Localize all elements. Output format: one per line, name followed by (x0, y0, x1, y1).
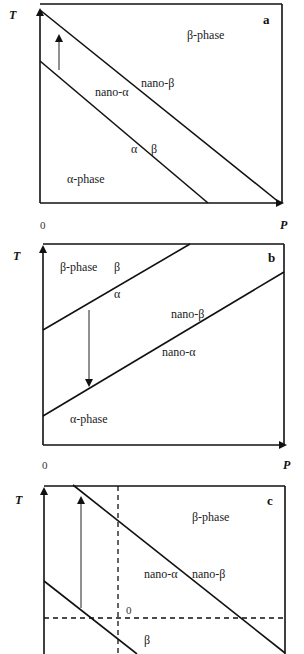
phase-diagram-figure: T a β-phase nano-β nano-α α β α-phase 0 … (0, 0, 304, 654)
panel-a-beta-label: β (151, 142, 157, 156)
panel-c-nano-beta-label: nano-β (192, 567, 225, 581)
panel-b-nano-boundary-line (43, 272, 284, 416)
panel-b-beta-phase-label: β-phase (60, 260, 97, 274)
panel-b-letter: b (268, 250, 275, 265)
panel-a-alpha-phase-label: α-phase (67, 172, 105, 186)
panel-b-alpha-phase-label: α-phase (70, 412, 108, 426)
panel-c-letter: c (267, 493, 273, 508)
panel-c-t-label: T (15, 493, 23, 507)
panel-a-p-label: P (280, 218, 288, 232)
panel-a-nano-beta-label: nano-β (141, 76, 174, 90)
panel-b-p-label: P (283, 458, 291, 472)
panel-c-nano-alpha-label: nano-α (144, 567, 178, 581)
panel-a-bulk-boundary-line (40, 61, 208, 203)
panel-a-alpha-label: α (131, 142, 138, 156)
panel-c: T c β-phase nano-α nano-β 0 β (15, 485, 285, 654)
panel-b: T b β-phase β α nano-β nano-α α-phase 0 … (13, 244, 291, 472)
panel-a: T a β-phase nano-β nano-α α β α-phase 0 … (9, 4, 288, 232)
panel-b-nano-alpha-label: nano-α (162, 345, 196, 359)
panel-a-nano-alpha-label: nano-α (95, 85, 129, 99)
panel-b-alpha-label: α (114, 287, 121, 301)
panel-a-letter: a (263, 12, 270, 27)
panel-b-nano-beta-label: nano-β (171, 307, 204, 321)
panel-b-origin-label: 0 (42, 459, 48, 471)
panel-c-dashed-origin-label: 0 (126, 604, 132, 616)
panel-a-origin-label: 0 (40, 219, 46, 231)
panel-b-beta-label: β (114, 260, 120, 274)
panel-a-beta-phase-label: β-phase (187, 28, 224, 42)
panel-b-t-label: T (13, 249, 21, 263)
panel-c-beta-label: β (144, 633, 150, 647)
panel-a-t-label: T (9, 8, 17, 22)
panel-c-beta-phase-label: β-phase (192, 510, 229, 524)
